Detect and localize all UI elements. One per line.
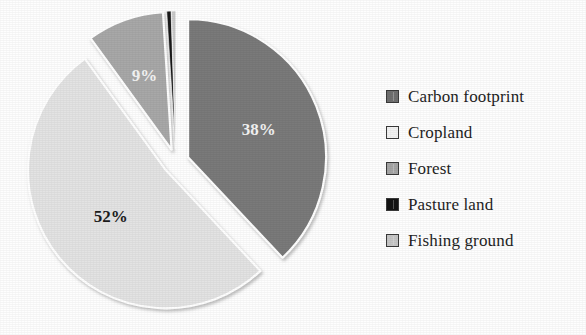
legend-swatch-pasture-land: [386, 198, 399, 211]
legend-label-pasture-land: Pasture land: [408, 196, 493, 213]
legend-item-cropland[interactable]: Cropland: [386, 114, 582, 150]
pie-label-forest: 9%: [132, 66, 158, 85]
legend-item-forest[interactable]: Forest: [386, 150, 582, 186]
pie-chart-figure: 38% 52% 9% Carbon footprint Cropland For…: [0, 0, 586, 335]
legend-item-carbon-footprint[interactable]: Carbon footprint: [386, 78, 582, 114]
legend-label-cropland: Cropland: [408, 124, 472, 141]
chart-plot-area: 38% 52% 9%: [0, 0, 372, 335]
legend-swatch-cropland: [386, 126, 399, 139]
pie-chart-svg: 38% 52% 9%: [0, 0, 372, 335]
pie-label-cropland: 52%: [94, 207, 128, 226]
legend-item-pasture-land[interactable]: Pasture land: [386, 186, 582, 222]
legend-label-fishing-ground: Fishing ground: [408, 232, 514, 249]
legend-label-forest: Forest: [408, 160, 451, 177]
legend-swatch-fishing-ground: [386, 234, 399, 247]
legend-swatch-carbon-footprint: [386, 90, 399, 103]
chart-legend: Carbon footprint Cropland Forest Pasture…: [386, 78, 582, 258]
legend-item-fishing-ground[interactable]: Fishing ground: [386, 222, 582, 258]
legend-label-carbon-footprint: Carbon footprint: [408, 88, 524, 105]
pie-label-carbon-footprint: 38%: [242, 120, 276, 139]
legend-swatch-forest: [386, 162, 399, 175]
